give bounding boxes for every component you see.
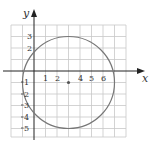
y-axis-label: y bbox=[22, 7, 30, 20]
x-tick-labels: 1 2 4 5 6 bbox=[43, 74, 106, 83]
center-point bbox=[67, 81, 70, 84]
svg-text:6: 6 bbox=[101, 74, 106, 83]
svg-text:4: 4 bbox=[24, 113, 29, 122]
svg-text:2: 2 bbox=[27, 44, 32, 53]
y-axis-arrow-icon bbox=[31, 9, 37, 17]
x-axis-label: x bbox=[142, 72, 149, 85]
svg-text:1: 1 bbox=[24, 78, 29, 87]
svg-text:1: 1 bbox=[43, 74, 48, 83]
svg-text:3: 3 bbox=[24, 101, 29, 110]
coordinate-plane: x y 1 2 4 5 6 3 2 1 2 3 4 5 bbox=[0, 0, 153, 147]
svg-text:2: 2 bbox=[24, 90, 29, 99]
svg-text:5: 5 bbox=[24, 124, 29, 133]
svg-text:5: 5 bbox=[89, 74, 94, 83]
svg-text:2: 2 bbox=[55, 74, 60, 83]
svg-text:3: 3 bbox=[27, 32, 32, 41]
svg-text:4: 4 bbox=[78, 74, 83, 83]
